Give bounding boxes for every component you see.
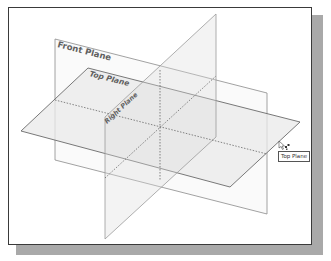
plane-tooltip: Top Plane: [278, 151, 310, 162]
right-plane[interactable]: [105, 14, 216, 239]
datum-planes-scene[interactable]: Front Plane Top Plane Right Plane: [0, 0, 331, 261]
select-plane-cursor-icon: [278, 141, 290, 151]
